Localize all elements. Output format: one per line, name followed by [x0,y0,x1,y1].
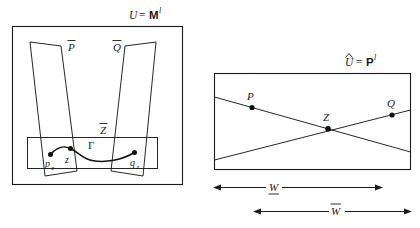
width-measure-outer: W [253,204,412,217]
left-panel-title-lhs: U [129,9,138,21]
point-Q-label: Q [387,97,395,109]
right-panel-title-superscript: l [374,53,377,62]
slab-q-bar-shape [111,42,156,176]
line-Q-ascending [215,110,411,160]
right-panel-title-lhs: U [345,56,354,68]
width-measure-outer-arrowhead-left [253,209,261,215]
slab-z-bar-label: Z [100,124,107,136]
point-z-dot [68,146,73,151]
path-gamma-label: Γ [88,139,94,151]
measurements-group: W W [213,181,412,217]
width-measure-outer-arrowhead-right [404,209,412,215]
point-Q-dot [389,112,394,117]
right-panel-title-rhs: P [366,56,374,68]
point-P-dot [249,105,254,110]
point-p-z-dot [48,152,53,157]
point-q-z-dot [132,150,137,155]
left-panel-title-rhs: M [149,9,159,21]
point-z-label: z [64,154,69,165]
line-P-descending [215,97,411,152]
point-Z-dot [325,126,331,132]
width-measure-inner-arrowhead-left [213,185,221,191]
figure-root: U = M l P Q Z Γ p z z q z [0,0,420,228]
width-measure-inner: W [213,181,383,194]
point-q-z-label: q [130,157,135,168]
slab-q-bar-label: Q [113,41,121,53]
left-panel-title-equals: = [139,9,146,21]
point-Z-label: Z [323,111,330,123]
slab-p-bar-shape [30,42,77,176]
point-P-label: P [246,90,254,102]
left-panel-group: U = M l P Q Z Γ p z z q z [13,6,183,185]
width-measure-inner-arrowhead-right [375,185,383,191]
left-panel-title-superscript: l [159,6,162,15]
width-measure-outer-label: W [331,205,341,217]
right-outer-box [215,74,411,170]
right-panel-group: U = P l P Z Q [215,53,411,170]
right-panel-title-equals: = [356,56,363,68]
point-p-z-label: p [44,158,50,169]
width-measure-inner-label: W [269,181,279,193]
slab-p-bar-label: P [67,41,75,53]
point-q-z-subscript: z [136,163,140,170]
figure-canvas: U = M l P Q Z Γ p z z q z [0,0,420,228]
point-p-z-subscript: z [51,164,55,171]
